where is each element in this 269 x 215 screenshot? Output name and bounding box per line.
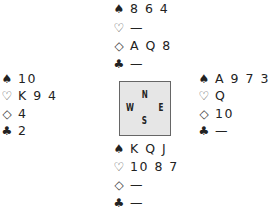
east-hearts: Q — [215, 87, 226, 105]
compass-east: E — [159, 102, 164, 113]
diamond-icon: ◇ — [112, 176, 126, 194]
east-spades: A 9 7 3 — [215, 70, 269, 88]
east-diamonds: 10 — [215, 105, 234, 123]
north-diamonds: A Q 8 — [130, 37, 172, 55]
spade-icon: ♠ — [0, 70, 14, 88]
north-spades: 8 6 4 — [130, 0, 169, 18]
south-clubs: — — [130, 194, 144, 212]
diamond-icon: ◇ — [0, 105, 14, 123]
club-icon: ♣ — [112, 194, 126, 212]
diamond-icon: ◇ — [112, 37, 126, 55]
club-icon: ♣ — [197, 122, 211, 140]
west-hearts: K 9 4 — [18, 87, 58, 105]
south-hearts: 10 8 7 — [130, 158, 179, 176]
diamond-icon: ◇ — [197, 105, 211, 123]
south-diamonds: — — [130, 176, 144, 194]
compass-north: N — [142, 89, 148, 100]
west-spades: 10 — [18, 70, 37, 88]
spade-icon: ♠ — [197, 70, 211, 88]
north-hearts: — — [130, 19, 144, 37]
heart-icon: ♡ — [0, 87, 14, 105]
spade-icon: ♠ — [112, 0, 126, 18]
heart-icon: ♡ — [197, 87, 211, 105]
south-spades: K Q J — [130, 140, 167, 158]
club-icon: ♣ — [112, 55, 126, 73]
compass-south: S — [142, 115, 147, 126]
north-clubs: — — [130, 55, 144, 73]
compass-west: W — [126, 102, 134, 113]
heart-icon: ♡ — [112, 19, 126, 37]
spade-icon: ♠ — [112, 140, 126, 158]
heart-icon: ♡ — [112, 158, 126, 176]
compass-box: N W E S — [119, 81, 171, 136]
west-diamonds: 4 — [18, 105, 27, 123]
club-icon: ♣ — [0, 122, 14, 140]
west-clubs: 2 — [18, 122, 27, 140]
east-clubs: — — [215, 122, 229, 140]
